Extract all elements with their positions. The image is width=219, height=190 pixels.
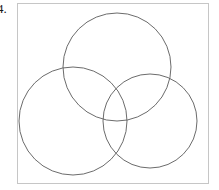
- venn-diagram: [0, 0, 219, 190]
- page-canvas: 4.: [0, 0, 219, 190]
